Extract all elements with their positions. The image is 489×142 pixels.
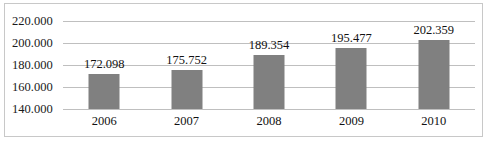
- bar-group-2006: 172.098 2006: [63, 4, 145, 138]
- bar-value-2008: 189.354: [249, 38, 290, 53]
- plot-area: 220.000 200.000 180.000 160.000 140.000 …: [5, 4, 484, 138]
- bar-2010[interactable]: [418, 40, 449, 109]
- bar-value-2007: 175.752: [166, 53, 207, 68]
- x-axis-label-2007: 2007: [174, 114, 199, 129]
- chart-container: 220.000 200.000 180.000 160.000 140.000 …: [4, 3, 483, 137]
- y-axis-label-220000: 220.000: [12, 14, 53, 29]
- bar-group-2007: 175.752 2007: [145, 4, 227, 138]
- bar-2006[interactable]: [89, 74, 120, 109]
- bar-group-2009: 195.477 2009: [310, 4, 392, 138]
- bar-group-2010: 202.359 2010: [393, 4, 475, 138]
- bar-value-2010: 202.359: [413, 23, 454, 38]
- y-axis-label-160000: 160.000: [12, 80, 53, 95]
- y-axis-label-200000: 200.000: [12, 36, 53, 51]
- bar-value-2009: 195.477: [331, 31, 372, 46]
- x-axis-label-2009: 2009: [339, 114, 364, 129]
- bar-2008[interactable]: [253, 55, 284, 109]
- bar-2009[interactable]: [336, 48, 367, 109]
- bar-group-2008: 189.354 2008: [228, 4, 310, 138]
- bar-2007[interactable]: [171, 70, 202, 109]
- x-axis-label-2006: 2006: [92, 114, 117, 129]
- x-axis-label-2010: 2010: [421, 114, 446, 129]
- bars-layer: 172.098 2006 175.752 2007 189.354 2008 1…: [63, 4, 475, 138]
- bar-value-2006: 172.098: [84, 57, 125, 72]
- x-axis-label-2008: 2008: [256, 114, 281, 129]
- y-axis-label-180000: 180.000: [12, 58, 53, 73]
- y-axis-label-140000: 140.000: [12, 102, 53, 117]
